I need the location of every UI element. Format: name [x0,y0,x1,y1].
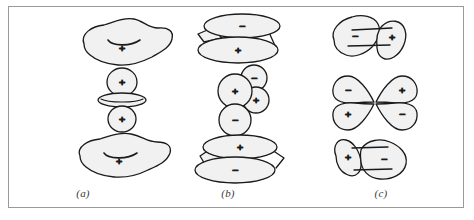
sign-a-mid-upper: + [119,76,125,88]
sign-b-bottom-upper: + [237,141,243,153]
sign-c-mid-upper-right: + [399,84,405,96]
sign-a-mid-lower: + [119,113,125,125]
panel-a-bottom-shape: + [79,133,170,177]
sign-b-mid-right: + [253,94,259,106]
caption-a: (a) [8,187,158,199]
panel-c-middle-shape: − + + − [333,76,417,130]
figure-root: + + + + [0,0,474,220]
sign-a-bottom: + [116,155,122,167]
sign-c-bottom-left: + [345,151,351,163]
panel-b-middle-shape: − + + − [218,65,269,136]
sign-b-mid-left: + [232,85,238,97]
panel-a: + + + + [79,19,172,178]
sign-b-mid-lower-left: − [232,114,238,126]
panel-a-top-shape: + [83,19,172,66]
sign-c-top-right: + [389,31,395,43]
sign-a-top: + [119,42,125,54]
sign-b-bottom-lower: − [232,164,238,176]
sign-c-mid-lower-right: − [399,108,405,120]
sign-c-mid-lower-left: + [345,108,351,120]
panel-c: − + − + + − [333,16,417,179]
panel-a-middle-shape: + + [98,68,146,132]
caption-c: (c) [298,187,464,199]
sign-b-mid-upper-right: − [251,72,257,84]
panel-b-top-shape: − + [198,14,280,63]
panel-c-bottom-shape: + − [335,140,407,179]
caption-b: (b) [158,187,298,199]
sign-c-top-left: − [352,30,358,42]
sign-b-top-lower: + [235,44,241,56]
panel-b-bottom-shape: + − [195,135,284,183]
panel-c-top-shape: − + [333,16,406,59]
panel-b: − + − + + − [195,14,284,183]
sign-c-mid-upper-left: − [345,84,351,96]
sign-c-bottom-right: − [381,153,387,165]
caption-row: (a) (b) (c) [8,182,464,204]
sign-b-top-upper: − [239,20,245,32]
